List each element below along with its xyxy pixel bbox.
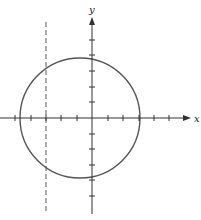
x-axis xyxy=(0,115,191,121)
x-axis-label: x xyxy=(194,113,200,124)
y-axis-arrow-icon xyxy=(89,17,95,25)
y-axis-label: y xyxy=(88,4,95,15)
x-axis-arrow-icon xyxy=(183,115,191,121)
coordinate-diagram: x y xyxy=(0,0,201,220)
y-axis xyxy=(89,17,95,214)
